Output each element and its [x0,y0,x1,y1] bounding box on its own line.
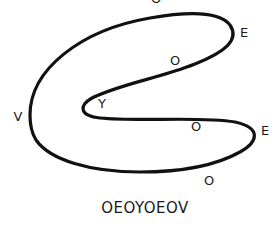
point-label-o-bottom: O [204,174,214,187]
point-label-y: Y [98,97,106,110]
point-label-o-top: O [151,0,161,5]
sequence-caption: OEOYOEOV [101,199,189,217]
point-label-o-lower: O [191,120,201,133]
point-label-e-upper: E [240,26,248,39]
point-label-v: V [14,110,23,123]
point-label-e-lower: E [261,124,269,137]
closed-curve [30,14,254,172]
point-label-o-upper: O [170,54,180,67]
closed-curve-diagram [0,0,280,225]
